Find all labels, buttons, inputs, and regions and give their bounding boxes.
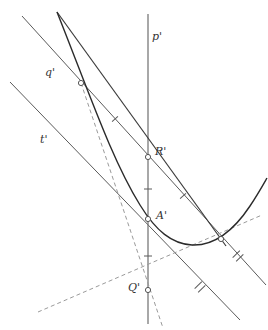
point-Q-prime — [145, 287, 150, 292]
point-R-prime — [145, 154, 150, 159]
label-Q-prime: Q' — [128, 281, 140, 294]
line-q-prime — [22, 16, 266, 285]
dashed-line-shallow — [38, 215, 262, 312]
label-t-prime: t' — [40, 133, 47, 146]
tick-double-t — [195, 282, 206, 293]
label-A-prime: A' — [156, 209, 167, 222]
point-A-prime — [145, 216, 150, 221]
tick-double-q — [233, 251, 244, 262]
chord-steep — [57, 12, 226, 246]
geometry-diagram: p' q' t' R' A' Q' — [0, 0, 268, 330]
label-p-prime: p' — [152, 30, 162, 43]
line-t-prime — [10, 82, 240, 320]
label-R-prime: R' — [155, 145, 166, 158]
point-right-intersection — [218, 236, 223, 241]
point-q-intersection — [78, 80, 83, 85]
label-q-prime: q' — [45, 66, 55, 79]
